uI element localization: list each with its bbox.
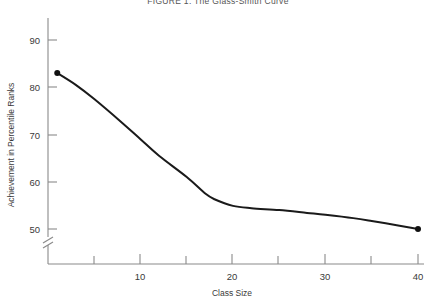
x-axis-title: Class Size xyxy=(212,288,252,298)
y-tick-label-50: 50 xyxy=(29,224,40,235)
x-tick-label-40: 40 xyxy=(413,271,424,282)
achievement-curve xyxy=(57,73,418,229)
y-axis-ticks xyxy=(48,40,57,229)
x-axis-major-ticks xyxy=(140,254,418,264)
x-tick-label-10: 10 xyxy=(135,271,146,282)
curve-end-marker xyxy=(415,226,421,232)
curve-start-marker xyxy=(54,70,60,76)
y-tick-label-60: 60 xyxy=(29,177,40,188)
class-size-achievement-chart: 90 80 70 60 50 10 20 30 40 Class Size Ac… xyxy=(0,0,436,300)
y-tick-label-70: 70 xyxy=(29,130,40,141)
figure-container: FIGURE 1. The Glass-Smith Curve 90 80 70… xyxy=(0,0,436,300)
y-axis-title: Achievement in Percentile Ranks xyxy=(6,83,16,208)
y-tick-label-90: 90 xyxy=(29,35,40,46)
x-tick-label-20: 20 xyxy=(227,271,238,282)
y-tick-label-80: 80 xyxy=(29,82,40,93)
x-tick-label-30: 30 xyxy=(320,271,331,282)
